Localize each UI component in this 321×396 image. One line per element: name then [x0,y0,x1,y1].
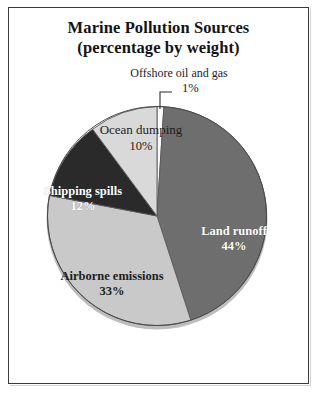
pie-label-airborne-value: 33% [45,284,179,299]
pie-label-ocean-name: Ocean dumping [99,122,183,138]
pie-label-offshore-oil-and-gas: Offshore oil and gas 1% [104,66,254,81]
pie-label-offshore-name: Offshore oil and gas [104,66,254,81]
pie-label-ocean-dumping: Ocean dumping 10% [99,122,183,154]
pie-label-shipping-name: Shipping spills [25,184,141,199]
pie-label-ocean-value: 10% [99,138,183,154]
pie-label-airborne-name: Airborne emissions [45,269,179,284]
pie-label-shipping-spills: Shipping spills 12% [25,184,141,214]
pie-chart-figure: Marine Pollution Sources (percentage by … [0,0,321,396]
pie-label-land-runoff: Land runoff 44% [191,224,277,254]
pie-label-offshore-value: 1% [182,81,216,96]
pie-label-land-runoff-name: Land runoff [191,224,277,239]
pie-label-airborne-emissions: Airborne emissions 33% [45,269,179,299]
pie-label-shipping-value: 12% [25,199,141,214]
pie-label-land-runoff-value: 44% [191,239,277,254]
